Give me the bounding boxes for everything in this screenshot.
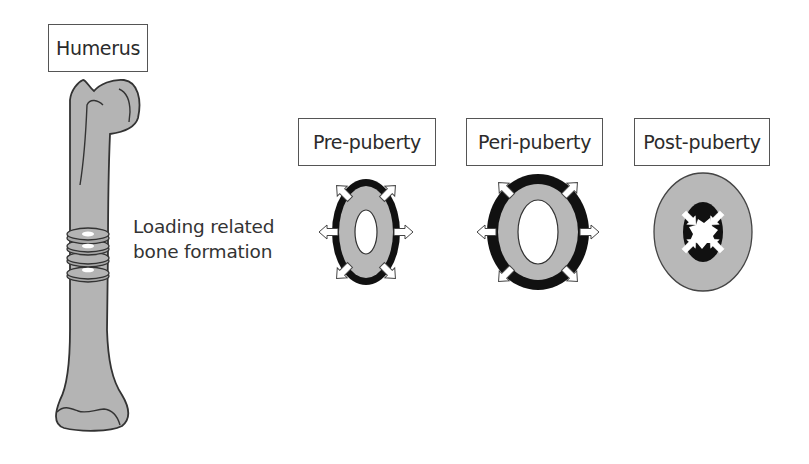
peri-puberty-cross-section-icon [477, 174, 599, 290]
pre-puberty-cross-section-icon [319, 179, 413, 285]
bone-formation-rings-icon [67, 228, 109, 282]
diagram-canvas [0, 0, 809, 464]
post-puberty-cross-section-icon [654, 173, 752, 291]
